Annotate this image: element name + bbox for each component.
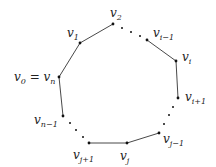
- label-v1: v1: [67, 26, 79, 42]
- ellipsis-dot: [163, 123, 165, 125]
- ellipsis-dots: [69, 27, 174, 138]
- label-vi+1: vi+1: [185, 90, 206, 106]
- vertex-vj: [126, 142, 129, 145]
- label-vj+1: vj+1: [73, 148, 94, 164]
- ellipsis-dot: [130, 31, 132, 33]
- label-vj: vj: [120, 149, 130, 165]
- vertex-vi+1: [177, 97, 180, 100]
- vertex-vn-1: [62, 115, 65, 118]
- edge-vi-1-vi: [147, 40, 176, 61]
- label-v2: v2: [110, 6, 122, 22]
- vertex-vj-1: [158, 132, 161, 135]
- ellipsis-dot: [75, 129, 77, 131]
- edge-v1-v2: [80, 24, 113, 43]
- ellipsis-dot: [168, 114, 170, 116]
- edge-vi-vi+1: [176, 61, 178, 98]
- vertex-v0: [58, 76, 61, 79]
- label-v0: v0 = vn: [14, 70, 56, 86]
- ellipsis-dot: [69, 122, 71, 124]
- vertex-vi-1: [146, 39, 149, 42]
- polygon-diagram: v0 = vn v1 v2 vi−1 vi vi+1 vj−1 vj vj+1 …: [0, 0, 216, 167]
- vertex-vi: [175, 60, 178, 63]
- vertex-v2: [112, 23, 115, 26]
- edge-vj-1-vj: [127, 133, 159, 143]
- edge-v0-v1: [59, 43, 80, 77]
- ellipsis-dot: [139, 35, 141, 37]
- ellipsis-dot: [172, 106, 174, 108]
- label-vn-1: vn−1: [34, 113, 58, 129]
- ellipsis-dot: [121, 27, 123, 29]
- vertex-vj+1: [88, 142, 91, 145]
- label-vi-1: vi−1: [153, 26, 174, 42]
- vertex-v1: [79, 42, 82, 45]
- label-vj-1: vj−1: [163, 132, 184, 148]
- edge-vn-1-v0: [59, 77, 63, 116]
- label-vi: vi: [182, 50, 192, 66]
- ellipsis-dot: [82, 136, 84, 138]
